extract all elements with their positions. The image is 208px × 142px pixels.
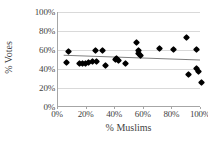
data-point [99,47,106,54]
y-axis-title: % Votes [3,27,14,89]
y-axis-tick-mark [53,69,55,70]
data-point [156,45,163,52]
data-points-layer [58,12,200,106]
x-axis-tick-label: 0% [51,109,63,119]
x-axis-tick-label: 100% [190,109,208,119]
x-axis-tick-label: 80% [163,109,179,119]
plot-area [57,12,200,107]
x-axis-tick-label: 20% [78,109,94,119]
data-point [195,68,202,75]
gridline [58,107,200,108]
x-axis-tick-mark [200,107,201,109]
data-point [133,39,140,46]
x-axis-tick-mark [143,107,144,109]
data-point [137,52,144,59]
y-axis-tick-mark [53,31,55,32]
data-point [197,79,204,86]
y-axis-tick-mark [53,88,55,89]
data-point [64,48,71,55]
y-axis-tick-mark [53,50,55,51]
y-axis-tick-mark [53,12,55,13]
data-point [185,71,192,78]
x-axis-tick-mark [171,107,172,109]
data-point [170,46,177,53]
x-axis-tick-mark [57,107,58,109]
x-axis-tick-label: 40% [106,109,122,119]
x-axis-tick-mark [114,107,115,109]
data-point [122,60,129,67]
y-axis-tick-label: 100% [1,8,55,17]
x-axis-tick-mark [86,107,87,109]
y-axis-tick-label: 0% [1,103,55,112]
x-axis-tick-label: 60% [135,109,151,119]
data-point [102,62,109,69]
data-point [193,46,200,53]
x-axis-tick-labels: 0%20%40%60%80%100% [57,109,200,121]
data-point [63,59,70,66]
data-point [183,34,190,41]
data-point [93,58,100,65]
data-point [92,46,99,53]
scatter-chart: 0%20%40%60%80%100% 0%20%40%60%80%100% % … [0,0,208,142]
y-axis-tick-mark [53,107,55,108]
x-axis-title: % Muslims [57,122,200,133]
